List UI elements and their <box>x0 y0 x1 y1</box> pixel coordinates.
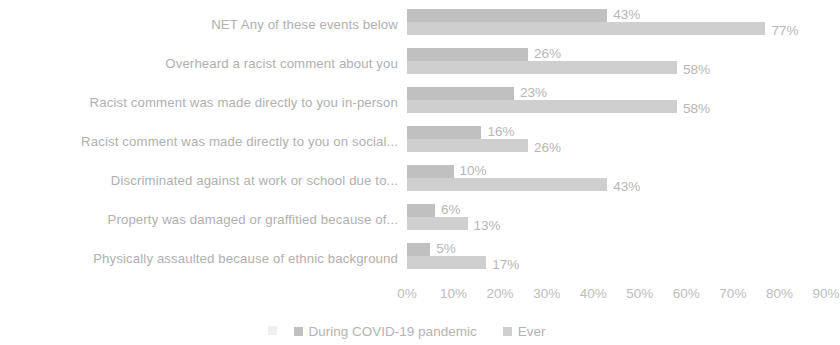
legend-swatch-icon <box>294 327 303 336</box>
bar-value-label: 43% <box>613 180 640 194</box>
category-label: Racist comment was made directly to you … <box>81 133 398 148</box>
category-label: Discriminated against at work or school … <box>111 172 398 187</box>
chart-legend: During COVID-19 pandemicEver <box>0 320 839 342</box>
scan-artifact-mark <box>268 326 277 335</box>
bar-during-covid <box>407 48 528 61</box>
bar-value-label: 58% <box>683 102 710 116</box>
bar-group: 5%17% <box>407 241 839 274</box>
bar-group: 43%77% <box>407 7 839 40</box>
bar-value-label: 13% <box>474 219 501 233</box>
axis-tick-label: 20% <box>487 286 514 301</box>
bar-during-covid <box>407 9 607 22</box>
axis-tick-label: 40% <box>580 286 607 301</box>
axis-tick-label: 50% <box>626 286 653 301</box>
legend-label: During COVID-19 pandemic <box>309 324 477 339</box>
bar-value-label: 43% <box>613 8 640 22</box>
bar-ever <box>407 256 486 269</box>
axis-tick-label: 10% <box>440 286 467 301</box>
chart-row: Racist comment was made directly to you … <box>0 121 839 160</box>
legend-swatch-icon <box>503 327 512 336</box>
bar-group: 16%26% <box>407 124 839 157</box>
legend-item[interactable]: During COVID-19 pandemic <box>294 324 477 339</box>
bar-during-covid <box>407 243 430 256</box>
axis-tick-label: 60% <box>673 286 700 301</box>
category-label: Racist comment was made directly to you … <box>90 94 398 109</box>
bar-during-covid <box>407 87 514 100</box>
bar-ever <box>407 22 765 35</box>
chart-row: Property was damaged or graffitied becau… <box>0 199 839 238</box>
bar-value-label: 16% <box>487 125 514 139</box>
bar-group: 6%13% <box>407 202 839 235</box>
chart-row: NET Any of these events below43%77% <box>0 4 839 43</box>
x-axis: 0%10%20%30%40%50%60%70%80%90% <box>0 286 839 306</box>
bar-value-label: 23% <box>520 86 547 100</box>
chart-row: Racist comment was made directly to you … <box>0 82 839 121</box>
bar-ever <box>407 61 677 74</box>
chart-row: Discriminated against at work or school … <box>0 160 839 199</box>
bar-value-label: 26% <box>534 141 561 155</box>
bar-group: 26%58% <box>407 46 839 79</box>
bar-ever <box>407 100 677 113</box>
bar-value-label: 77% <box>771 24 798 38</box>
bar-group: 10%43% <box>407 163 839 196</box>
chart-row: Overheard a racist comment about you26%5… <box>0 43 839 82</box>
axis-tick-label: 30% <box>533 286 560 301</box>
category-label: Overheard a racist comment about you <box>165 55 398 70</box>
bar-value-label: 26% <box>534 47 561 61</box>
bar-during-covid <box>407 204 435 217</box>
bar-during-covid <box>407 126 481 139</box>
category-label: Property was damaged or graffitied becau… <box>107 211 398 226</box>
axis-tick-label: 0% <box>397 286 417 301</box>
legend-item[interactable]: Ever <box>503 324 546 339</box>
plot-area: NET Any of these events below43%77%Overh… <box>0 0 839 282</box>
bar-value-label: 58% <box>683 63 710 77</box>
bar-group: 23%58% <box>407 85 839 118</box>
axis-tick-label: 70% <box>719 286 746 301</box>
bar-value-label: 10% <box>460 164 487 178</box>
legend-label: Ever <box>518 324 546 339</box>
bar-value-label: 6% <box>441 203 461 217</box>
bar-ever <box>407 217 468 230</box>
category-label: NET Any of these events below <box>211 16 398 31</box>
bar-value-label: 5% <box>436 242 456 256</box>
axis-tick-label: 80% <box>766 286 793 301</box>
axis-tick-label: 90% <box>812 286 839 301</box>
bar-value-label: 17% <box>492 258 519 272</box>
bar-ever <box>407 178 607 191</box>
category-label: Physically assaulted because of ethnic b… <box>93 250 398 265</box>
bar-ever <box>407 139 528 152</box>
bar-during-covid <box>407 165 454 178</box>
chart-row: Physically assaulted because of ethnic b… <box>0 238 839 277</box>
